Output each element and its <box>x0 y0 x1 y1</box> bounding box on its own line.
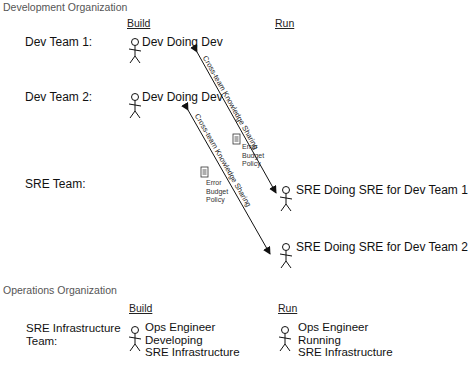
role-sre-for-dev-1: SRE Doing SRE for Dev Team 1 <box>296 183 468 197</box>
document-icon <box>233 134 240 144</box>
person-icon <box>280 244 292 269</box>
person-icon <box>280 187 292 212</box>
team-label-sre-infra: SRE Infrastructure Team: <box>26 322 121 347</box>
dev-org-title: Development Organization <box>3 1 127 13</box>
role-ops-engineer-running: Ops Engineer Running SRE Infrastructure <box>298 321 393 359</box>
team-label-sre: SRE Team: <box>25 177 85 191</box>
person-icon <box>129 39 141 64</box>
role-dev-doing-dev-2: Dev Doing Dev <box>142 90 223 104</box>
role-sre-for-dev-2: SRE Doing SRE for Dev Team 2 <box>296 240 468 254</box>
ops-org-title: Operations Organization <box>3 284 117 296</box>
team-label-dev-2: Dev Team 2: <box>25 90 92 104</box>
role-ops-engineer-developing: Ops Engineer Developing SRE Infrastructu… <box>145 321 240 359</box>
dev-run-header: Run <box>275 17 294 29</box>
team-label-dev-1: Dev Team 1: <box>25 35 92 49</box>
dev-build-header: Build <box>127 17 150 29</box>
ops-run-header: Run <box>278 302 297 314</box>
person-icon <box>279 327 291 352</box>
role-dev-doing-dev-1: Dev Doing Dev <box>142 35 223 49</box>
ops-build-header: Build <box>129 302 152 314</box>
error-budget-policy-2: Error Budget Policy <box>206 179 228 205</box>
document-icon <box>201 167 208 177</box>
person-icon <box>129 94 141 119</box>
person-icon <box>129 327 141 352</box>
knowledge-sharing-arrow-2 <box>188 110 270 254</box>
error-budget-policy-1: Error Budget Policy <box>242 143 264 169</box>
